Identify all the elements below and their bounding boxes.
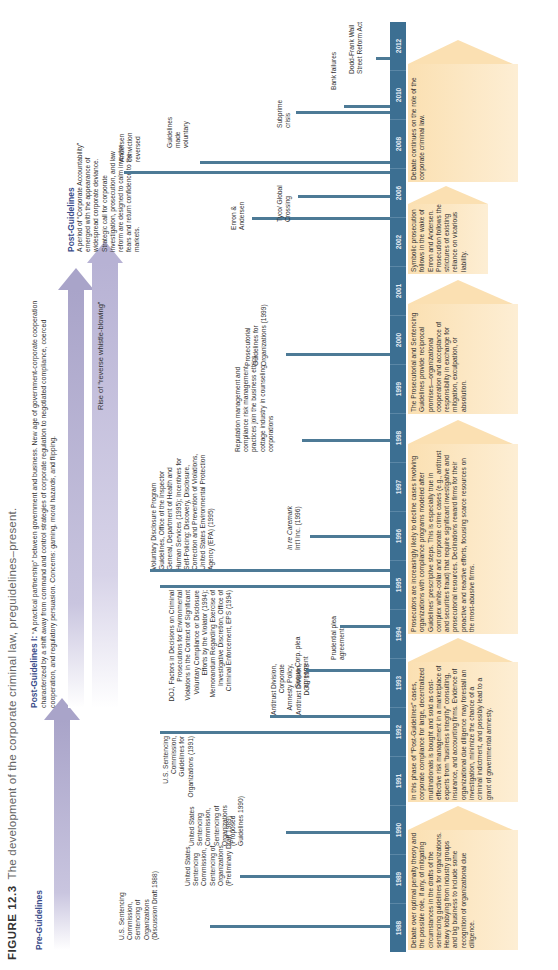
box-arrow-4	[408, 280, 513, 304]
tick-1991	[160, 731, 390, 734]
tick-1998	[302, 439, 390, 442]
event-1993-sequa: Sequa Corp. plea agreement	[294, 628, 310, 688]
box-text-1: Debate over optimal penalty theory and t…	[410, 832, 476, 948]
box-text-6: Debate continues on the role of the corp…	[410, 70, 427, 180]
box-arrow-2	[408, 638, 513, 662]
event-2002-enron: Enron & Andersen	[230, 180, 246, 230]
year-label: 1989	[390, 854, 406, 903]
box-arrow-1	[408, 806, 513, 830]
year-label: 2008	[390, 119, 406, 168]
tick-1993-antitrust	[270, 715, 390, 718]
year-label: 1999	[390, 364, 406, 413]
year-label: 1997	[390, 462, 406, 511]
figure-caption-text: The development of the corporate crimina…	[6, 508, 18, 880]
event-2008-bank: Bank failures	[330, 50, 338, 90]
tick-1988	[210, 925, 390, 928]
tick-2008-bank	[344, 105, 390, 108]
pre-guidelines-label: Pre-Guidelines	[34, 890, 44, 950]
tick-1994-prudential	[340, 625, 390, 628]
box-arrow-6	[408, 40, 513, 64]
year-label: 1994	[390, 609, 406, 658]
box-text-3: Prosecutors are increasingly likely to d…	[410, 448, 476, 632]
event-2010: Dodd-Frank Wall Street Reform Act	[348, 14, 364, 74]
year-label: 2000	[390, 315, 406, 364]
tick-2002-enron	[252, 217, 390, 220]
tick-2006-guidelines	[200, 161, 390, 164]
event-2006-guidelines: Guidelines made voluntary	[166, 108, 191, 148]
figure-caption: FIGURE 12.3The development of the corpor…	[6, 508, 18, 960]
box-text-4: The Prosecutorial and Sentencing Guideli…	[410, 306, 468, 412]
year-label: 2006	[390, 168, 406, 217]
event-1999: Prosecutorial Guidelines for Organizatio…	[244, 296, 269, 366]
tick-1989	[240, 875, 390, 878]
event-1991: U.S. Sentencing Commission, Guidelines f…	[162, 736, 195, 798]
figure-number: FIGURE 12.3	[6, 885, 18, 960]
year-label: 1990	[390, 805, 406, 854]
year-label: 1996	[390, 511, 406, 560]
event-1988: U.S. Sentencing Commission, Sentencing o…	[118, 870, 159, 940]
year-axis: 1988 1989 1990 1991 1992 1993 1994 1995 …	[390, 22, 406, 952]
event-2008-subprime: Subprime crisis	[276, 88, 292, 128]
event-2006-andersen: Andersen conviction reversed	[118, 122, 143, 162]
tick-2008-subprime	[296, 111, 390, 114]
event-1994-doj: DOJ, Factors in Decisions on Criminal Pr…	[168, 590, 234, 710]
tick-1990	[286, 831, 390, 834]
event-1995: Voluntary Disclosure Program Guidelines,…	[150, 450, 216, 570]
year-label: 1995	[390, 560, 406, 609]
year-label: 2002	[390, 217, 406, 266]
box-arrow-3	[408, 420, 513, 444]
tick-1996	[310, 535, 390, 538]
tick-2006-andersen	[124, 171, 390, 174]
event-1990: United States Sentencing Commission, Sen…	[188, 786, 245, 846]
figure-canvas: FIGURE 12.3The development of the corpor…	[0, 0, 558, 970]
year-label: 2001	[390, 266, 406, 315]
box-text-5: Symbolic prosecution follows in the wake…	[410, 204, 468, 272]
year-label: 1992	[390, 707, 406, 756]
tick-2002-tyco	[298, 195, 390, 198]
box-text-2: In this phase of “Post-Guidelines” cases…	[410, 664, 493, 800]
tick-1995	[150, 569, 390, 572]
tick-1993-sequa	[306, 669, 390, 672]
year-label: 1993	[390, 658, 406, 707]
tick-2010	[376, 57, 390, 60]
year-label: 1998	[390, 413, 406, 462]
box-arrow-5	[408, 186, 488, 204]
event-1996: In re Caremark Int’l Inc. (1996)	[286, 480, 302, 550]
reverse-whistle-label: Rise of “reverse whistle-blowing”	[96, 302, 105, 410]
year-label: 2010	[390, 70, 406, 119]
year-label: 1991	[390, 756, 406, 805]
tick-1994-doj	[160, 585, 390, 588]
tick-1999	[286, 353, 390, 356]
post-guidelines-1-text: Post-Guidelines I: “A practical partners…	[30, 288, 57, 708]
year-label: 2012	[390, 22, 406, 70]
year-label: 1988	[390, 903, 406, 952]
event-1998: Reputation management and compliance ris…	[234, 352, 275, 452]
event-2002-tyco: Tyco/ Global Crossing	[276, 172, 292, 222]
